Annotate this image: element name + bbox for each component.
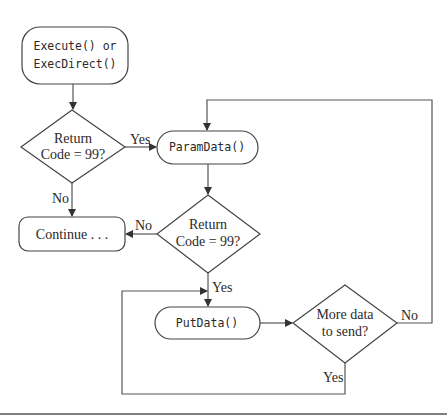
start-line2: ExecDirect() (33, 57, 116, 71)
decision1-line2: Code = 99? (41, 147, 106, 162)
decision1-line1: Return (54, 131, 92, 146)
decision2-line2: Code = 99? (176, 234, 241, 249)
label-decision2-no: No (135, 218, 152, 233)
node-putdata: PutData() (155, 307, 260, 339)
putdata-label: PutData() (176, 316, 238, 330)
start-line1: Execute() or (33, 39, 116, 53)
node-continue: Continue . . . (19, 217, 125, 251)
label-decision3-yes: Yes (323, 370, 343, 385)
decision3-line1: More data (316, 307, 374, 322)
node-decision3: More data to send? (293, 285, 397, 363)
node-decision1: Return Code = 99? (21, 110, 125, 183)
node-decision2: Return Code = 99? (157, 195, 260, 273)
node-start: Execute() or ExecDirect() (22, 27, 128, 84)
node-paramdata: ParamData() (157, 131, 258, 164)
label-decision1-yes: Yes (130, 132, 150, 147)
continue-label: Continue . . . (36, 227, 108, 242)
decision3-line2: to send? (322, 324, 368, 339)
flowchart: Execute() or ExecDirect() Return Code = … (0, 0, 447, 418)
label-decision1-no: No (52, 191, 69, 206)
decision2-line1: Return (189, 217, 227, 232)
paramdata-label: ParamData() (169, 140, 245, 154)
label-decision2-yes: Yes (212, 280, 232, 295)
label-decision3-no: No (401, 308, 418, 323)
